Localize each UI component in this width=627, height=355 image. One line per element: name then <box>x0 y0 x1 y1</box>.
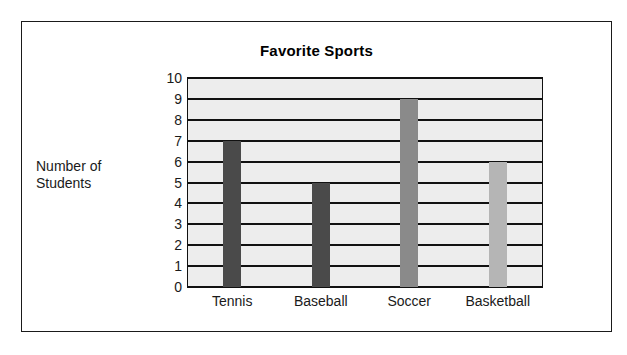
y-tick-label: 7 <box>174 133 182 149</box>
chart-frame: Favorite Sports Number of Students 10987… <box>21 21 612 332</box>
x-tick-label: Baseball <box>294 293 348 309</box>
gridline <box>188 119 542 121</box>
plot-area: 109876543210 TennisBaseballSoccerBasketb… <box>187 77 543 288</box>
y-tick-label: 4 <box>174 195 182 211</box>
x-tick-label: Tennis <box>212 293 252 309</box>
x-tick-label: Soccer <box>387 293 431 309</box>
bar-baseball <box>312 183 330 288</box>
bar-soccer <box>400 99 418 287</box>
y-tick-label: 10 <box>166 70 182 86</box>
y-tick-label: 3 <box>174 216 182 232</box>
y-tick-label: 0 <box>174 279 182 295</box>
y-tick-label: 6 <box>174 154 182 170</box>
y-tick-label: 1 <box>174 258 182 274</box>
y-tick-label: 9 <box>174 91 182 107</box>
y-axis-title: Number of Students <box>36 158 156 192</box>
y-tick-label: 5 <box>174 175 182 191</box>
bar-basketball <box>489 162 507 287</box>
chart-title: Favorite Sports <box>22 42 611 59</box>
y-tick-label: 2 <box>174 237 182 253</box>
y-tick-label: 8 <box>174 112 182 128</box>
gridline <box>188 98 542 100</box>
gridline <box>188 77 542 79</box>
bar-tennis <box>223 141 241 287</box>
x-tick-label: Basketball <box>465 293 530 309</box>
